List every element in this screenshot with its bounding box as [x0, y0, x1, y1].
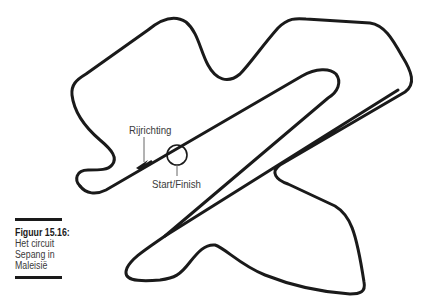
caption-bottom-rule — [15, 276, 62, 279]
caption-line: Maleisië — [15, 260, 59, 271]
caption-line: Het circuit — [15, 238, 59, 249]
caption-line: Sepang in — [15, 249, 59, 260]
start-finish-label: Start/Finish — [152, 178, 201, 190]
sepang-circuit-diagram — [0, 0, 435, 298]
track-outline — [72, 18, 412, 294]
figure-number: Figuur 15.16: — [15, 227, 59, 238]
figure-caption: Figuur 15.16: Het circuit Sepang in Male… — [15, 218, 65, 279]
caption-top-rule — [15, 218, 62, 221]
direction-label: Rijrichting — [129, 124, 172, 136]
